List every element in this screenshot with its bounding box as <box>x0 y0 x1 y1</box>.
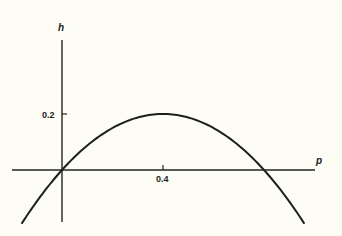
chart: h p 0.2 0.4 <box>0 0 342 236</box>
y-axis-label: h <box>58 22 64 33</box>
x-axis-label: p <box>315 155 322 166</box>
y-tick-label: 0.2 <box>42 110 55 120</box>
x-tick-label: 0.4 <box>156 174 169 184</box>
